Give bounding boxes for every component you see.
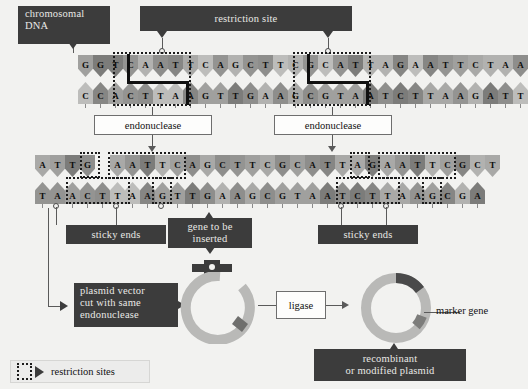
backbone-tick: [282, 204, 283, 208]
gene-insert-line2: inserted: [193, 233, 228, 245]
nucleotide-c: C: [93, 82, 108, 104]
nucleotide-letter: A: [258, 82, 273, 103]
nucleotide-letter: C: [78, 82, 93, 103]
nucleotide-letter: G: [243, 82, 258, 103]
backbone-tick: [490, 104, 491, 108]
ligase-box[interactable]: ligase: [276, 291, 326, 319]
backbone-tick: [252, 204, 253, 208]
chromosomal-dna-line2: DNA: [25, 20, 48, 32]
nucleotide-letter: A: [438, 82, 453, 103]
nucleotide-letter: C: [215, 155, 230, 172]
plasmid-vector-line3: endonuclease: [80, 309, 139, 321]
nucleotide-t: T: [110, 182, 125, 204]
legend-triangle-right-icon: [35, 366, 44, 378]
nucleotide-g: G: [288, 82, 303, 104]
nucleotide-c: C: [198, 55, 213, 77]
nucleotide-g: G: [425, 182, 440, 204]
endonuclease-right-box[interactable]: endonuclease: [274, 115, 392, 135]
nucleotide-t: T: [213, 82, 228, 104]
nucleotide-t: T: [438, 55, 453, 77]
nucleotide-letter: T: [335, 182, 350, 203]
sticky-right-line-b: [386, 207, 387, 225]
nucleotide-c: C: [78, 82, 93, 104]
backbone-tick: [207, 204, 208, 208]
nucleotide-letter: C: [350, 182, 365, 203]
plasmid-vector-label: plasmid vector cut with same endonucleas…: [74, 283, 178, 327]
nucleotide-t: T: [513, 82, 528, 104]
nucleotide-letter: G: [365, 155, 380, 172]
nucleotide-letter: T: [228, 82, 243, 103]
backbone-tick: [312, 204, 313, 208]
gene-insert-arrow-down: [205, 247, 215, 254]
nucleotide-a: A: [258, 82, 273, 104]
nucleotide-a: A: [320, 182, 335, 204]
nucleotide-letter: A: [153, 55, 168, 72]
nucleotide-a: A: [125, 182, 140, 204]
nucleotide-g: G: [275, 182, 290, 204]
gene-insert-line1: gene to be: [187, 221, 232, 233]
nucleotide-t: T: [320, 155, 335, 177]
nucleotide-a: A: [185, 155, 200, 177]
nucleotide-g: G: [318, 82, 333, 104]
nucleotide-letter: T: [213, 82, 228, 103]
nucleotide-letter: A: [215, 182, 230, 203]
nucleotide-c: C: [393, 82, 408, 104]
nucleotide-letter: G: [318, 82, 333, 103]
cut-plasmid-ring: [180, 272, 260, 344]
nucleotide-a: A: [213, 55, 228, 77]
backbone-tick: [250, 104, 251, 108]
backbone-tick: [430, 104, 431, 108]
backbone-tick: [372, 204, 373, 208]
backbone-tick: [505, 104, 506, 108]
nucleotide-c: C: [468, 55, 483, 77]
nucleotide-letter: A: [320, 182, 335, 203]
nucleotide-letter: A: [65, 182, 80, 203]
backbone-tick: [205, 104, 206, 108]
nucleotide-letter: T: [320, 155, 335, 172]
nucleotide-letter: C: [123, 55, 138, 72]
nucleotide-letter: A: [498, 55, 513, 72]
nucleotide-letter: A: [108, 82, 123, 103]
nucleotide-letter: A: [125, 182, 140, 203]
nucleotide-a: A: [348, 82, 363, 104]
nucleotide-t: T: [333, 82, 348, 104]
sticky-left-line-a: [56, 207, 57, 225]
nucleotide-a: A: [395, 182, 410, 204]
nucleotide-a: A: [453, 82, 468, 104]
nucleotide-a: A: [423, 55, 438, 77]
nucleotide-letter: T: [155, 155, 170, 172]
nucleotide-letter: T: [425, 155, 440, 172]
nucleotide-c: C: [80, 182, 95, 204]
nucleotide-letter: T: [453, 55, 468, 72]
nucleotide-letter: A: [50, 182, 65, 203]
nucleotide-letter: T: [95, 182, 110, 203]
nucleotide-letter: C: [260, 155, 275, 172]
nucleotide-letter: G: [455, 155, 470, 172]
nucleotide-t: T: [95, 182, 110, 204]
nucleotide-g: G: [228, 55, 243, 77]
nucleotide-letter: T: [363, 55, 378, 72]
nucleotide-t: T: [153, 82, 168, 104]
nucleotide-letter: G: [228, 55, 243, 72]
nucleotide-a: A: [230, 182, 245, 204]
nucleotide-letter: G: [393, 55, 408, 72]
nucleotide-t: T: [50, 155, 65, 177]
backbone-tick: [417, 204, 418, 208]
backbone-tick: [447, 204, 448, 208]
nucleotide-a: A: [410, 182, 425, 204]
nucleotide-a: A: [305, 182, 320, 204]
nucleotide-t: T: [228, 82, 243, 104]
backbone-tick: [280, 104, 281, 108]
backbone-tick: [237, 204, 238, 208]
backbone-tick: [147, 204, 148, 208]
nucleotide-letter: T: [290, 182, 305, 203]
backbone-tick: [192, 204, 193, 208]
nucleotide-t: T: [498, 82, 513, 104]
endonuclease-left-box[interactable]: endonuclease: [94, 115, 212, 135]
backbone-tick: [267, 204, 268, 208]
nucleotide-letter: T: [365, 182, 380, 203]
nucleotide-letter: A: [168, 82, 183, 103]
nucleotide-letter: G: [155, 182, 170, 203]
backbone-tick: [132, 204, 133, 208]
